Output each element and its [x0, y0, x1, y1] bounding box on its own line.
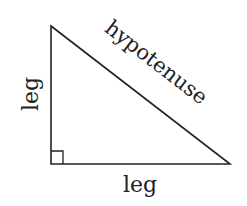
right-triangle-diagram: leg leg hypotenuse — [0, 0, 247, 206]
hypotenuse-label: hypotenuse — [100, 16, 212, 110]
right-angle-marker — [51, 151, 63, 164]
vertical-leg-label: leg — [18, 77, 43, 111]
horizontal-leg-label: leg — [123, 172, 157, 197]
